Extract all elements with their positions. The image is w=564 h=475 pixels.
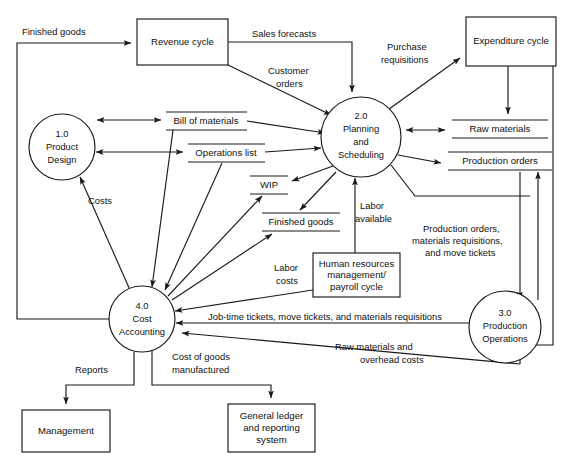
edge-cost-accounting-to-wip	[168, 196, 262, 296]
edge-costs-to-product-design	[80, 177, 130, 290]
datastore-wip[interactable]: WIP	[250, 176, 288, 194]
entity-label: Management	[38, 425, 94, 436]
process-1-product-design[interactable]: 1.0 Product Design	[29, 114, 95, 180]
entity-label-line3: system	[256, 434, 286, 445]
entity-label-line1: Human resources	[319, 258, 395, 269]
datastore-label: WIP	[260, 179, 278, 190]
flow-label-sales-forecasts: Sales forecasts	[252, 28, 316, 39]
datastore-raw-materials[interactable]: Raw materials	[452, 120, 548, 138]
flow-label-labor-available-line2: available	[355, 213, 392, 224]
entity-general-ledger-reporting-system[interactable]: General ledger and reporting system	[228, 404, 315, 452]
process-3-production-operations[interactable]: 3.0 Production Operations	[469, 291, 541, 363]
process-label-line2: Accounting	[119, 327, 165, 337]
datastore-operations-list[interactable]: Operations list	[188, 144, 265, 162]
edge-planning-to-production-orders	[398, 155, 441, 163]
flow-label-labor-available-line1: Labor	[360, 200, 384, 211]
flow-label-production-orders-materials-line3: and move tickets	[425, 247, 496, 258]
process-label-line1: Production	[483, 321, 527, 331]
flow-label-labor-costs-line2: costs	[276, 275, 298, 286]
process-4-cost-accounting[interactable]: 4.0 Cost Accounting	[109, 286, 175, 352]
datastore-bill-of-materials[interactable]: Bill of materials	[166, 112, 247, 130]
entity-expenditure-cycle[interactable]: Expenditure cycle	[466, 17, 556, 66]
edge-cost-accounting-to-finished-goods	[172, 234, 272, 300]
flow-label-cogm-line1: Cost of goods	[172, 351, 230, 362]
datastore-production-orders[interactable]: Production orders	[448, 152, 552, 170]
process-label-line1: Cost	[132, 314, 152, 324]
flow-label-production-orders-materials-line1: Production orders,	[423, 223, 500, 234]
flow-label-reports: Reports	[75, 364, 108, 375]
edge-operations-list-to-cost-accounting	[165, 163, 222, 290]
diagram-canvas: Bill of materials Operations list WIP Fi…	[0, 0, 564, 475]
datastore-label: Bill of materials	[173, 115, 238, 126]
process-number: 2.0	[355, 111, 368, 121]
edge-bom-to-planning	[247, 121, 325, 133]
process-number: 3.0	[499, 308, 512, 318]
flow-label-labor-costs-line1: Labor	[274, 262, 298, 273]
datastore-label: Operations list	[195, 147, 257, 158]
process-label-line3: Scheduling	[338, 150, 384, 160]
process-label-line1: Product	[46, 142, 78, 152]
edge-finished-goods-to-revenue	[17, 43, 131, 319]
flow-label-customer-orders-line1: Customer	[268, 65, 309, 76]
entity-label: Expenditure cycle	[473, 35, 549, 46]
edge-operations-list-to-planning	[265, 148, 321, 152]
edge-bom-to-cost-accounting	[152, 130, 173, 287]
edge-planning-to-wip	[292, 166, 333, 181]
edge-planning-to-finished-goods	[300, 172, 336, 210]
flow-label-cogm-line2: manufactured	[172, 364, 229, 375]
flow-label-production-orders-materials-line2: materials requisitions,	[412, 235, 503, 246]
flow-label-customer-orders-line2: orders	[276, 78, 303, 89]
flow-label-finished-goods: Finished goods	[22, 26, 86, 37]
flow-label-raw-overhead-line1: Raw materials and	[335, 341, 413, 352]
entity-management[interactable]: Management	[22, 410, 110, 452]
entity-label-line3: payroll cycle	[330, 281, 383, 292]
entity-label-line2: and reporting	[243, 422, 300, 433]
flow-label-job-time-tickets: Job-time tickets, move tickets, and mate…	[208, 311, 442, 322]
datastore-label: Production orders	[462, 155, 538, 166]
datastore-label: Finished goods	[268, 216, 333, 227]
entity-human-resources-payroll-cycle[interactable]: Human resources management/ payroll cycl…	[313, 253, 400, 297]
edge-labor-costs	[175, 290, 313, 311]
process-number: 1.0	[56, 129, 69, 139]
flow-label-purchase-requisitions-line1: Purchase	[387, 41, 427, 52]
datastore-finished-goods[interactable]: Finished goods	[262, 213, 340, 231]
entity-label-line2: management/	[327, 269, 386, 280]
flow-label-costs: Costs	[88, 195, 112, 206]
data-flow-diagram: Bill of materials Operations list WIP Fi…	[0, 0, 564, 475]
process-label-line2: and	[353, 137, 369, 147]
edge-purchase-requisitions	[385, 58, 460, 112]
entity-revenue-cycle[interactable]: Revenue cycle	[137, 19, 228, 65]
process-label-line2: Design	[48, 155, 77, 165]
entity-label: Revenue cycle	[151, 36, 214, 47]
entity-label-line1: General ledger	[240, 410, 304, 421]
datastore-label: Raw materials	[470, 123, 531, 134]
process-label-line2: Operations	[482, 334, 528, 344]
process-number: 4.0	[136, 301, 149, 311]
edge-reports-to-management	[66, 352, 134, 404]
flow-label-purchase-requisitions-line2: requisitions	[381, 54, 429, 65]
process-2-planning-and-scheduling[interactable]: 2.0 Planning and Scheduling	[321, 97, 401, 177]
process-label-line1: Planning	[343, 124, 379, 134]
flow-label-raw-overhead-line2: overhead costs	[360, 354, 424, 365]
